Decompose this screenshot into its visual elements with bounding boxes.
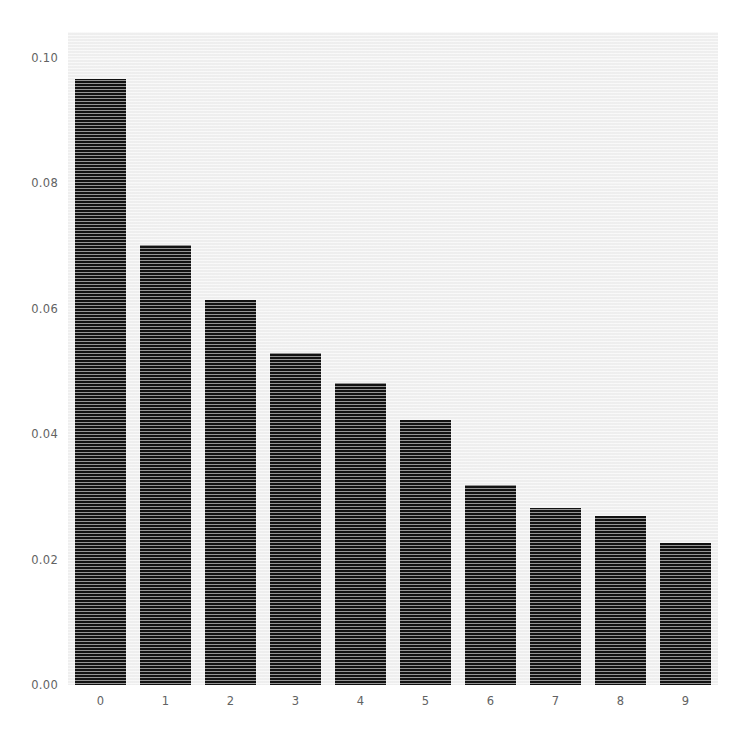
gridline xyxy=(68,183,718,184)
bar xyxy=(205,300,256,685)
bar xyxy=(400,420,451,685)
y-tick-label: 0.00 xyxy=(2,678,58,692)
y-tick-label: 0.04 xyxy=(2,427,58,441)
x-tick-label: 2 xyxy=(227,694,234,708)
plot-area xyxy=(68,32,718,685)
chart-figure: 0.000.020.040.060.080.100123456789 xyxy=(0,0,742,739)
gridline xyxy=(68,58,718,59)
bar xyxy=(140,245,191,685)
bar xyxy=(530,508,581,685)
x-tick-label: 9 xyxy=(682,694,689,708)
x-tick-label: 1 xyxy=(162,694,169,708)
x-tick-label: 3 xyxy=(292,694,299,708)
bar xyxy=(270,353,321,685)
y-tick-label: 0.02 xyxy=(2,553,58,567)
y-tick-label: 0.06 xyxy=(2,302,58,316)
x-tick-label: 4 xyxy=(357,694,364,708)
y-tick-label: 0.10 xyxy=(2,51,58,65)
bar xyxy=(335,383,386,685)
bar xyxy=(75,79,126,685)
bar xyxy=(595,516,646,685)
x-tick-label: 8 xyxy=(617,694,624,708)
bar xyxy=(660,543,711,685)
bar xyxy=(465,485,516,685)
x-tick-label: 6 xyxy=(487,694,494,708)
x-tick-label: 5 xyxy=(422,694,429,708)
x-tick-label: 7 xyxy=(552,694,559,708)
x-tick-label: 0 xyxy=(97,694,104,708)
y-tick-label: 0.08 xyxy=(2,176,58,190)
